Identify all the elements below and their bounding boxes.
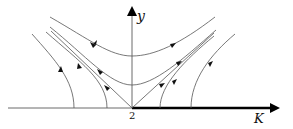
k-axis-label: K <box>254 111 264 126</box>
arrow-icon <box>170 43 176 48</box>
y-axis-label: y <box>137 8 145 24</box>
k-axis-arrowhead-icon <box>270 103 280 113</box>
arrow-icon <box>208 61 213 67</box>
trajectory-right-outer <box>191 34 235 108</box>
arrow-icon <box>77 63 82 69</box>
phase-portrait <box>0 0 293 129</box>
separatrix-left <box>51 31 132 108</box>
arrow-icon <box>172 79 177 85</box>
trajectory-left-outer <box>32 34 74 108</box>
trajectory-top <box>50 17 215 56</box>
y-axis-arrowhead-icon <box>127 6 137 16</box>
arrow-icon <box>159 83 165 88</box>
arrow-icon <box>58 66 63 72</box>
origin-tick-label: 2 <box>129 110 135 121</box>
